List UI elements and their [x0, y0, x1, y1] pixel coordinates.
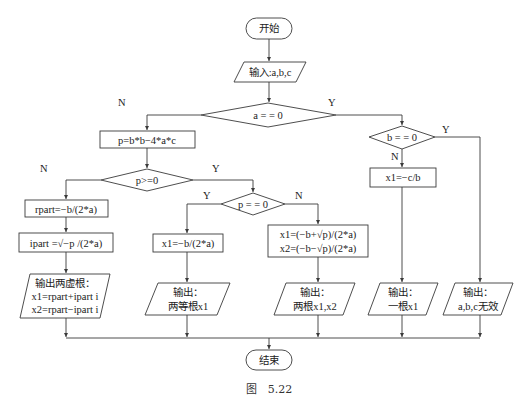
decision-b-zero: b = = 0 — [369, 126, 435, 149]
decision-b-zero-label: b = = 0 — [387, 132, 417, 143]
decision-p-eq-zero-label: p = = 0 — [238, 199, 268, 210]
output-complex-roots: 输出两虚根： x1=rpart+ipart i x2=rpart−ipart i — [20, 274, 110, 318]
output-equal-roots: 输出： 两等根x1 — [145, 283, 230, 315]
edge-p-eq-yes — [187, 204, 221, 233]
input-node: 输入:a,b,c — [234, 62, 306, 82]
process-x2-label: x2=(−b−√p)/(2*a) — [280, 243, 357, 255]
branch-p-ge-no: N — [40, 163, 48, 174]
process-x1-label: x1=(−b+√p)/(2*a) — [280, 229, 357, 241]
branch-p-eq-no: N — [295, 190, 303, 201]
process-rpart-label: rpart=−b/(2*a) — [35, 204, 97, 216]
end-node: 结束 — [246, 350, 292, 370]
output-complex-line3: x2=rpart−ipart i — [32, 304, 99, 315]
edge-p-eq-no — [285, 204, 318, 224]
output-one-line1: 输出： — [388, 286, 418, 298]
process-x1-linear-label: x1=−c/b — [385, 172, 420, 183]
output-two-roots: 输出： 两根x1,x2 — [274, 283, 355, 315]
edge-p-ge-yes — [193, 180, 253, 192]
process-x1-linear: x1=−c/b — [370, 168, 436, 187]
process-ipart-label: ipart =√−p /(2*a) — [30, 238, 103, 250]
output-complex-line2: x1=rpart+ipart i — [32, 291, 99, 302]
output-invalid-line2: a,b,c无效 — [458, 300, 499, 312]
process-rpart: rpart=−b/(2*a) — [25, 200, 108, 217]
start-label: 开始 — [259, 22, 280, 34]
output-two-line1: 输出： — [300, 286, 330, 298]
edge-cond-a-yes — [336, 115, 402, 125]
end-label: 结束 — [259, 354, 280, 366]
output-two-line2: 两根x1,x2 — [293, 300, 337, 312]
branch-b-yes: Y — [442, 124, 450, 135]
decision-p-eq-zero: p = = 0 — [221, 193, 285, 215]
process-two-roots: x1=(−b+√p)/(2*a) x2=(−b−√p)/(2*a) — [268, 225, 368, 257]
decision-a-zero: a = = 0 — [201, 103, 336, 127]
output-one-line2: 一根x1 — [388, 300, 419, 312]
flowchart: 开始 输入:a,b,c a = = 0 N Y p=b*b−4*a*c p>=0… — [0, 0, 530, 399]
process-x1-equal-label: x1=−b/(2*a) — [162, 238, 215, 250]
process-x1-equal: x1=−b/(2*a) — [153, 234, 223, 252]
decision-p-ge-zero-label: p>=0 — [136, 175, 158, 186]
output-invalid: 输出： a,b,c无效 — [443, 283, 513, 315]
process-ipart: ipart =√−p /(2*a) — [19, 233, 113, 252]
branch-a-no: N — [118, 97, 126, 108]
output-complex-line1: 输出两虚根： — [35, 277, 95, 289]
edge-p-ge-no — [66, 180, 101, 199]
decision-p-ge-zero: p>=0 — [101, 169, 193, 191]
output-invalid-line1: 输出： — [463, 286, 493, 298]
edge-cond-a-no — [147, 115, 201, 130]
edge-cond-b-yes — [435, 137, 480, 282]
process-calc-p-label: p=b*b−4*a*c — [118, 135, 176, 146]
output-equal-line1: 输出： — [173, 286, 203, 298]
process-calc-p: p=b*b−4*a*c — [100, 131, 195, 148]
start-node: 开始 — [246, 18, 292, 39]
output-one-root: 输出： 一根x1 — [368, 283, 438, 315]
figure-caption: 图 5.22 — [246, 383, 293, 396]
branch-a-yes: Y — [328, 97, 336, 108]
output-equal-line2: 两等根x1 — [168, 300, 209, 312]
branch-p-ge-yes: Y — [212, 163, 220, 174]
branch-b-no: N — [391, 151, 399, 162]
decision-a-zero-label: a = = 0 — [253, 110, 283, 121]
branch-p-eq-yes: Y — [203, 190, 211, 201]
input-label: 输入:a,b,c — [249, 66, 292, 78]
